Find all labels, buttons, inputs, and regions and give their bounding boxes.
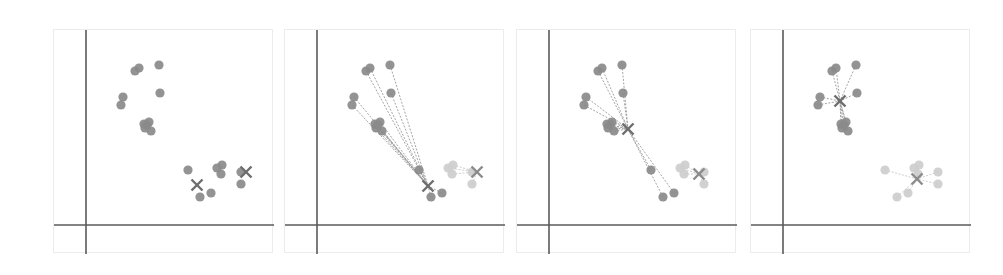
data-point [579, 100, 588, 109]
assignment-link [380, 122, 428, 186]
data-point [851, 60, 860, 69]
scatter-plot [751, 30, 971, 254]
data-point [581, 92, 590, 101]
data-point [386, 88, 395, 97]
data-point [195, 192, 204, 201]
data-point [831, 63, 840, 72]
data-point [852, 88, 861, 97]
data-point [597, 63, 606, 72]
scatter-plot [54, 30, 274, 254]
data-point [813, 100, 822, 109]
data-point [679, 169, 688, 178]
data-point [467, 179, 476, 188]
data-point [118, 92, 127, 101]
data-point [903, 188, 912, 197]
data-point [236, 179, 245, 188]
data-point [347, 100, 356, 109]
data-point [617, 60, 626, 69]
scatter-plot [517, 30, 737, 254]
data-point [365, 63, 374, 72]
panel-3-update [516, 29, 736, 253]
data-point [183, 165, 192, 174]
data-point [699, 179, 708, 188]
data-point [134, 63, 143, 72]
data-point [206, 188, 215, 197]
data-point [880, 165, 889, 174]
data-point [373, 120, 382, 129]
data-point [658, 192, 667, 201]
assignment-link [628, 129, 674, 193]
centroid-x-icon [423, 181, 434, 192]
data-point [349, 92, 358, 101]
data-point [933, 179, 942, 188]
data-point [448, 160, 457, 169]
centroid-x-icon [192, 180, 203, 191]
data-point [680, 160, 689, 169]
data-point [155, 88, 164, 97]
data-point [646, 165, 655, 174]
panel-4-converged [750, 29, 970, 253]
data-point [892, 192, 901, 201]
data-point [437, 188, 446, 197]
data-point [618, 88, 627, 97]
data-point [116, 100, 125, 109]
data-point [154, 60, 163, 69]
data-point [142, 120, 151, 129]
data-point [217, 160, 226, 169]
data-point [216, 169, 225, 178]
assignment-link [628, 129, 651, 170]
data-point [815, 92, 824, 101]
data-point [447, 169, 456, 178]
data-point [385, 60, 394, 69]
data-point [669, 188, 678, 197]
data-point [914, 160, 923, 169]
panel-1-initial [53, 29, 273, 253]
data-point [839, 120, 848, 129]
scatter-plot [285, 30, 505, 254]
data-point [426, 192, 435, 201]
data-point [933, 167, 942, 176]
data-point [414, 165, 423, 174]
panel-2-assign [284, 29, 504, 253]
data-point [605, 120, 614, 129]
